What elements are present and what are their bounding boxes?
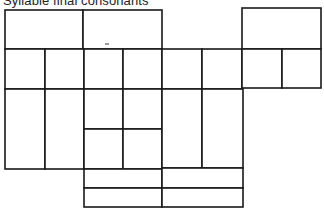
grid-cell-bottom-right-1 (162, 168, 243, 188)
grid-cell-row3-c3-bottom (84, 129, 123, 169)
grid-cell-row2-c3 (84, 49, 123, 89)
grid-cell-row3-c6 (202, 89, 243, 168)
grid-cell-row3-c4-top (123, 89, 162, 129)
grid-cell-row3-c5 (162, 89, 202, 168)
grid-cell-row2-c2 (45, 49, 84, 89)
scan-artifact (105, 43, 109, 45)
grid-cell-row2-c1 (5, 49, 45, 89)
consonant-grid (0, 0, 324, 211)
grid-cell-top-right (242, 8, 321, 49)
grid-cell-row2-c4 (123, 49, 162, 89)
grid-cell-row3-c3-top (84, 89, 123, 129)
grid-cell-row3-c4-bottom (123, 129, 162, 169)
grid-cell-row2-c6 (202, 49, 242, 89)
grid-cell-top-left-a (5, 10, 83, 49)
grid-cell-bottom-right-2 (162, 188, 243, 207)
grid-cell-bottom-left-2 (84, 188, 162, 207)
grid-cell-top-left-b (83, 10, 162, 49)
grid-cell-row3-c2 (45, 89, 84, 169)
grid-cell-row2-c8 (282, 49, 321, 88)
grid-cells (5, 8, 321, 207)
grid-cell-row2-c7 (242, 49, 282, 88)
grid-cell-row2-c5 (162, 49, 202, 89)
grid-cell-bottom-left-1 (84, 169, 162, 188)
grid-cell-row3-c1 (5, 89, 45, 169)
